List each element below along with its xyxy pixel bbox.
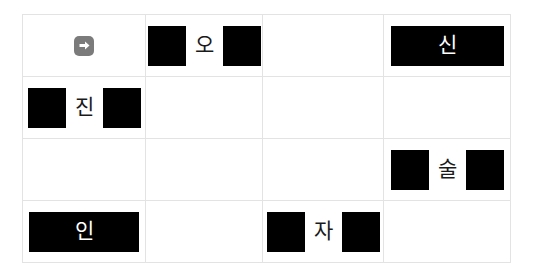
syllable-text: 신 bbox=[438, 35, 457, 56]
blank-bar[interactable]: 신 bbox=[391, 26, 504, 66]
blank-square-left[interactable] bbox=[267, 212, 305, 252]
syllable-worksheet-grid: 오 신 bbox=[22, 14, 510, 260]
cell-content-r3c2 bbox=[146, 139, 262, 200]
cell-content-r1c4: 신 bbox=[384, 15, 510, 76]
cell-r1c2[interactable]: 오 bbox=[146, 15, 263, 77]
table-row: 오 신 bbox=[23, 15, 511, 77]
cell-content-r3c4: 술 bbox=[384, 139, 510, 200]
cell-r4c3[interactable]: 자 bbox=[263, 201, 384, 263]
cell-r2c1[interactable]: 진 bbox=[23, 77, 146, 139]
cell-r2c3[interactable] bbox=[263, 77, 384, 139]
cell-content-r4c2 bbox=[146, 201, 262, 262]
cell-content-r3c1 bbox=[23, 139, 145, 200]
cell-r1c1[interactable] bbox=[23, 15, 146, 77]
cell-r4c1[interactable]: 인 bbox=[23, 201, 146, 263]
blank-square-right[interactable] bbox=[103, 88, 141, 128]
blank-square-right[interactable] bbox=[223, 26, 261, 66]
cell-r1c4[interactable]: 신 bbox=[384, 15, 511, 77]
cell-r3c1[interactable] bbox=[23, 139, 146, 201]
cell-content-r2c3 bbox=[263, 77, 383, 138]
cell-r4c4[interactable] bbox=[384, 201, 511, 263]
cell-content-r4c4 bbox=[384, 201, 510, 262]
worksheet-table: 오 신 bbox=[22, 14, 511, 263]
table-row: 진 bbox=[23, 77, 511, 139]
cell-content-r1c3 bbox=[263, 15, 383, 76]
cell-content-r4c3: 자 bbox=[263, 201, 383, 262]
cell-r2c2[interactable] bbox=[146, 77, 263, 139]
table-row: 술 bbox=[23, 139, 511, 201]
cell-content-r2c4 bbox=[384, 77, 510, 138]
blank-square-right[interactable] bbox=[342, 212, 380, 252]
syllable-text: 술 bbox=[429, 159, 466, 180]
cell-r1c3[interactable] bbox=[263, 15, 384, 77]
cell-content-r1c2: 오 bbox=[146, 15, 262, 76]
cell-content-r1c1 bbox=[23, 15, 145, 76]
cell-r3c2[interactable] bbox=[146, 139, 263, 201]
syllable-text: 자 bbox=[305, 221, 342, 242]
blank-bar[interactable]: 인 bbox=[29, 212, 139, 252]
cell-content-r2c1: 진 bbox=[23, 77, 145, 138]
blank-square-left[interactable] bbox=[148, 26, 186, 66]
syllable-text: 오 bbox=[186, 35, 223, 56]
cell-r3c4[interactable]: 술 bbox=[384, 139, 511, 201]
cell-r2c4[interactable] bbox=[384, 77, 511, 139]
blank-square-left[interactable] bbox=[28, 88, 66, 128]
cell-content-r3c3 bbox=[263, 139, 383, 200]
blank-square-left[interactable] bbox=[391, 150, 429, 190]
arrow-right-rounded-icon[interactable] bbox=[74, 36, 94, 56]
cell-r3c3[interactable] bbox=[263, 139, 384, 201]
table-row: 인 자 bbox=[23, 201, 511, 263]
cell-content-r2c2 bbox=[146, 77, 262, 138]
cell-content-r4c1: 인 bbox=[23, 201, 145, 262]
syllable-text: 인 bbox=[75, 221, 94, 242]
cell-r4c2[interactable] bbox=[146, 201, 263, 263]
blank-square-right[interactable] bbox=[466, 150, 504, 190]
syllable-text: 진 bbox=[66, 97, 103, 118]
